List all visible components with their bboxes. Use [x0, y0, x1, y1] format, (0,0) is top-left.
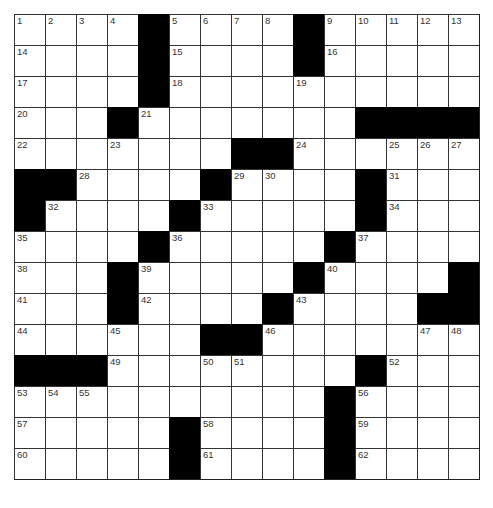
- grid-cell[interactable]: 42: [138, 293, 169, 324]
- grid-cell[interactable]: [262, 200, 293, 231]
- grid-cell[interactable]: [293, 231, 324, 262]
- grid-cell[interactable]: 32: [45, 200, 76, 231]
- grid-cell[interactable]: [293, 324, 324, 355]
- grid-cell[interactable]: [107, 76, 138, 107]
- grid-cell[interactable]: 34: [386, 200, 417, 231]
- grid-cell[interactable]: [448, 200, 479, 231]
- grid-cell[interactable]: [324, 107, 355, 138]
- grid-cell[interactable]: [200, 262, 231, 293]
- grid-cell[interactable]: [262, 386, 293, 417]
- grid-cell[interactable]: [138, 386, 169, 417]
- grid-cell[interactable]: 29: [231, 169, 262, 200]
- grid-cell[interactable]: 5: [169, 14, 200, 45]
- grid-cell[interactable]: [45, 417, 76, 448]
- grid-cell[interactable]: 62: [355, 448, 386, 479]
- grid-cell[interactable]: [262, 45, 293, 76]
- grid-cell[interactable]: [231, 45, 262, 76]
- grid-cell[interactable]: [200, 386, 231, 417]
- grid-cell[interactable]: 11: [386, 14, 417, 45]
- grid-cell[interactable]: 36: [169, 231, 200, 262]
- grid-cell[interactable]: [76, 107, 107, 138]
- grid-cell[interactable]: 16: [324, 45, 355, 76]
- grid-cell[interactable]: [200, 45, 231, 76]
- grid-cell[interactable]: [386, 324, 417, 355]
- grid-cell[interactable]: [262, 76, 293, 107]
- grid-cell[interactable]: 52: [386, 355, 417, 386]
- grid-cell[interactable]: [417, 200, 448, 231]
- grid-cell[interactable]: 46: [262, 324, 293, 355]
- grid-cell[interactable]: 48: [448, 324, 479, 355]
- grid-cell[interactable]: 35: [14, 231, 45, 262]
- grid-cell[interactable]: [231, 417, 262, 448]
- grid-cell[interactable]: [169, 262, 200, 293]
- grid-cell[interactable]: [138, 169, 169, 200]
- grid-cell[interactable]: [169, 355, 200, 386]
- grid-cell[interactable]: [200, 293, 231, 324]
- grid-cell[interactable]: [355, 45, 386, 76]
- grid-cell[interactable]: 40: [324, 262, 355, 293]
- grid-cell[interactable]: 12: [417, 14, 448, 45]
- grid-cell[interactable]: 49: [107, 355, 138, 386]
- grid-cell[interactable]: [76, 231, 107, 262]
- grid-cell[interactable]: [324, 200, 355, 231]
- grid-cell[interactable]: 30: [262, 169, 293, 200]
- grid-cell[interactable]: [231, 200, 262, 231]
- grid-cell[interactable]: 3: [76, 14, 107, 45]
- grid-cell[interactable]: [293, 200, 324, 231]
- grid-cell[interactable]: [448, 386, 479, 417]
- grid-cell[interactable]: [107, 200, 138, 231]
- grid-cell[interactable]: 41: [14, 293, 45, 324]
- grid-cell[interactable]: [448, 231, 479, 262]
- grid-cell[interactable]: [262, 417, 293, 448]
- grid-cell[interactable]: 50: [200, 355, 231, 386]
- grid-cell[interactable]: 17: [14, 76, 45, 107]
- grid-cell[interactable]: [386, 45, 417, 76]
- grid-cell[interactable]: 10: [355, 14, 386, 45]
- grid-cell[interactable]: [231, 76, 262, 107]
- grid-cell[interactable]: [45, 262, 76, 293]
- grid-cell[interactable]: [293, 448, 324, 479]
- grid-cell[interactable]: [76, 76, 107, 107]
- grid-cell[interactable]: [169, 386, 200, 417]
- grid-cell[interactable]: [45, 231, 76, 262]
- grid-cell[interactable]: [231, 231, 262, 262]
- grid-cell[interactable]: 44: [14, 324, 45, 355]
- grid-cell[interactable]: [231, 386, 262, 417]
- grid-cell[interactable]: [293, 169, 324, 200]
- grid-cell[interactable]: 8: [262, 14, 293, 45]
- grid-cell[interactable]: [200, 107, 231, 138]
- grid-cell[interactable]: [138, 200, 169, 231]
- grid-cell[interactable]: [417, 355, 448, 386]
- grid-cell[interactable]: 55: [76, 386, 107, 417]
- grid-cell[interactable]: [448, 417, 479, 448]
- grid-cell[interactable]: [231, 293, 262, 324]
- grid-cell[interactable]: [138, 138, 169, 169]
- grid-cell[interactable]: [417, 262, 448, 293]
- grid-cell[interactable]: [386, 262, 417, 293]
- grid-cell[interactable]: 56: [355, 386, 386, 417]
- grid-cell[interactable]: [386, 293, 417, 324]
- grid-cell[interactable]: [417, 231, 448, 262]
- grid-cell[interactable]: [324, 355, 355, 386]
- grid-cell[interactable]: [169, 169, 200, 200]
- grid-cell[interactable]: 18: [169, 76, 200, 107]
- grid-cell[interactable]: 47: [417, 324, 448, 355]
- grid-cell[interactable]: [45, 107, 76, 138]
- grid-cell[interactable]: [262, 355, 293, 386]
- grid-cell[interactable]: 39: [138, 262, 169, 293]
- grid-cell[interactable]: [76, 45, 107, 76]
- grid-cell[interactable]: 45: [107, 324, 138, 355]
- grid-cell[interactable]: [76, 293, 107, 324]
- grid-cell[interactable]: [386, 448, 417, 479]
- grid-cell[interactable]: [138, 417, 169, 448]
- grid-cell[interactable]: [417, 169, 448, 200]
- grid-cell[interactable]: 13: [448, 14, 479, 45]
- grid-cell[interactable]: [324, 169, 355, 200]
- grid-cell[interactable]: [107, 231, 138, 262]
- grid-cell[interactable]: [417, 45, 448, 76]
- grid-cell[interactable]: [355, 293, 386, 324]
- grid-cell[interactable]: 37: [355, 231, 386, 262]
- grid-cell[interactable]: 60: [14, 448, 45, 479]
- grid-cell[interactable]: [231, 107, 262, 138]
- grid-cell[interactable]: [262, 448, 293, 479]
